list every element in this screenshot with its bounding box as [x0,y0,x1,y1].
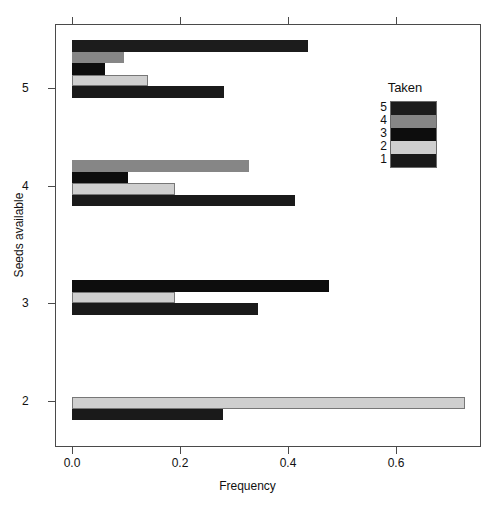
y-tick-label: 2 [22,394,29,408]
x-tick-bottom-0.0 [72,447,73,454]
x-tick-top-0.6 [396,17,397,24]
bar-seeds-5-taken-3 [72,63,105,75]
x-tick-bottom-0.4 [288,447,289,454]
x-tick-bottom-0.2 [180,447,181,454]
legend-label-5: 5 [373,100,387,114]
bar-seeds-3-taken-1 [72,303,258,315]
x-tick-label: 0.2 [172,456,189,470]
bar-seeds-2-taken-2 [72,397,465,409]
legend-label-3: 3 [373,126,387,140]
legend-title: Taken [370,80,440,95]
bar-seeds-4-taken-1 [72,195,295,207]
legend-label-2: 2 [373,139,387,153]
x-tick-label: 0.4 [280,456,297,470]
x-tick-top-0.0 [72,17,73,24]
legend-swatch-3 [391,128,436,141]
bar-seeds-5-taken-4 [72,52,124,64]
x-tick-top-0.2 [180,17,181,24]
legend-swatch-5 [391,102,436,115]
bar-seeds-2-taken-1 [72,409,223,421]
y-tick-label: 3 [22,296,29,310]
x-axis-title: Frequency [0,479,495,493]
bar-seeds-5-taken-1 [72,86,224,98]
legend-label-1: 1 [373,152,387,166]
y-tick-3 [48,303,55,304]
bar-seeds-5-taken-2 [72,75,148,87]
bar-seeds-4-taken-3 [72,172,128,184]
legend-swatch-box [390,101,437,168]
y-axis-title: Seeds available [12,175,26,295]
bar-seeds-3-taken-3 [72,280,329,292]
y-tick-2 [48,401,55,402]
y-tick-5 [48,88,55,89]
y-tick-4 [48,186,55,187]
legend-swatch-2 [391,141,436,154]
x-tick-label: 0.6 [388,456,405,470]
bar-seeds-3-taken-2 [72,292,175,304]
legend-label-4: 4 [373,113,387,127]
bar-seeds-4-taken-4 [72,160,249,172]
y-tick-label: 5 [22,81,29,95]
bar-seeds-5-taken-5 [72,40,308,52]
bar-chart-figure: 0.00.20.40.62345 Frequency Seeds availab… [0,0,495,508]
bar-seeds-4-taken-2 [72,183,175,195]
x-tick-top-0.4 [288,17,289,24]
legend-swatch-4 [391,115,436,128]
x-tick-label: 0.0 [64,456,81,470]
legend-swatch-1 [391,154,436,167]
x-tick-bottom-0.6 [396,447,397,454]
